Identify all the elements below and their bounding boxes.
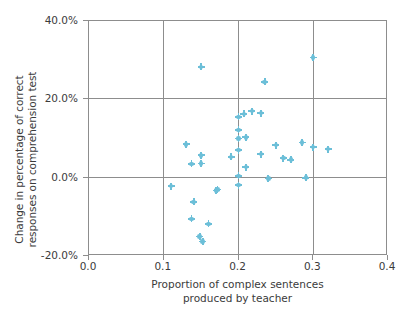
y-tick-label: -20.0% (41, 249, 78, 261)
y-axis-title: Change in percentage of correct response… (0, 0, 52, 319)
data-point (168, 183, 175, 190)
gridline-x-0.2 (238, 21, 239, 254)
data-point (265, 175, 272, 182)
data-point (242, 164, 249, 171)
data-point (183, 141, 190, 148)
y-tick-label: 0.0% (51, 171, 78, 183)
x-tick-label: 0.0 (80, 260, 97, 272)
data-point (196, 233, 203, 240)
y-axis-title-line-2: responses on comprehension test (26, 72, 39, 248)
scatter-chart-figure: Change in percentage of correct response… (0, 0, 411, 319)
data-point (242, 134, 249, 141)
y-tick-mark (83, 98, 88, 99)
data-point (213, 187, 220, 194)
gridline-x-0.3 (313, 21, 314, 254)
plot-area (88, 20, 387, 255)
gridline-y-20 (89, 98, 386, 99)
y-axis-title-line-1: Change in percentage of correct (13, 72, 26, 248)
data-point (188, 160, 195, 167)
x-tick-label: 0.3 (304, 260, 321, 272)
data-point (198, 160, 205, 167)
y-tick-label: 40.0% (45, 14, 78, 26)
data-point (228, 153, 235, 160)
gridline-y-0 (89, 177, 386, 178)
data-point (198, 63, 205, 70)
gridline-x-0.1 (163, 21, 164, 254)
y-tick-mark (83, 20, 88, 21)
y-tick-mark (83, 177, 88, 178)
x-tick-label: 0.1 (154, 260, 171, 272)
data-point (198, 152, 205, 159)
data-point (214, 186, 221, 193)
data-point (272, 142, 279, 149)
data-point (248, 108, 255, 115)
data-point (257, 151, 264, 158)
data-point (280, 155, 287, 162)
data-point (257, 110, 264, 117)
y-tick-label: 20.0% (45, 92, 78, 104)
x-axis-title-line-1: Proportion of complex sentences (88, 277, 387, 291)
data-point (205, 220, 212, 227)
x-axis-title-line-2: produced by teacher (88, 291, 387, 305)
data-point (188, 215, 195, 222)
data-point (199, 238, 206, 245)
x-tick-label: 0.4 (379, 260, 396, 272)
data-point (261, 78, 268, 85)
data-point (325, 146, 332, 153)
x-tick-label: 0.2 (229, 260, 246, 272)
data-point (240, 110, 247, 117)
data-point (287, 156, 294, 163)
x-axis-title: Proportion of complex sentences produced… (88, 277, 387, 305)
data-point (299, 139, 306, 146)
data-point (190, 198, 197, 205)
y-tick-mark (83, 255, 88, 256)
